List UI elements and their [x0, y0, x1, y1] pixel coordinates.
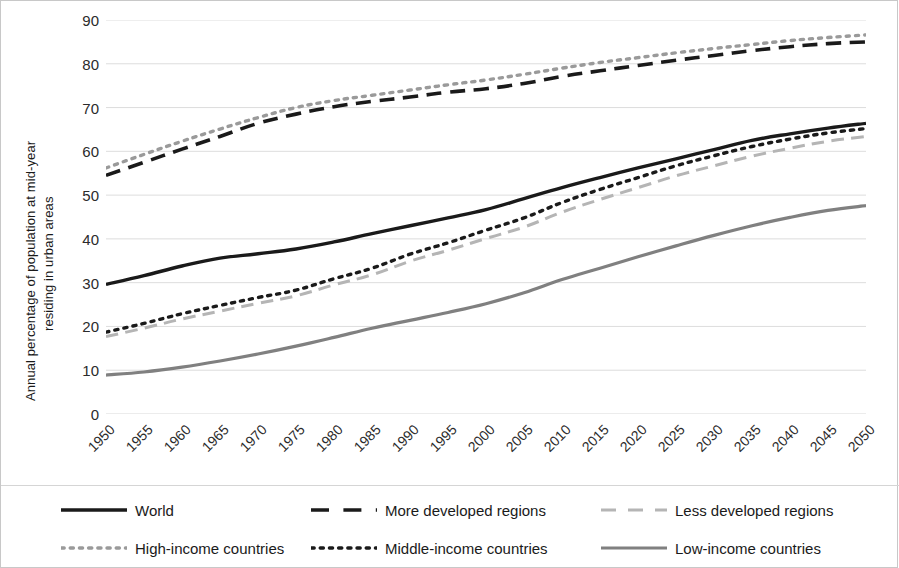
x-axis-tick-label: 1955: [109, 421, 156, 468]
x-axis-tick-label: 2005: [489, 421, 536, 468]
x-axis-tick-label: 1960: [147, 421, 194, 468]
legend-item[interactable]: Less developed regions: [601, 502, 899, 519]
x-axis-tick-label: 1975: [261, 421, 308, 468]
x-axis-tick-label: 2035: [717, 421, 764, 468]
x-axis-tick-label: 1965: [185, 421, 232, 468]
y-axis-title: Annual percentage of population at mid-y…: [1, 1, 63, 431]
legend-item[interactable]: Low-income countries: [601, 540, 899, 557]
x-axis-tick-label: 2030: [679, 421, 726, 468]
legend-label: Low-income countries: [667, 540, 821, 557]
plot-area: [106, 20, 866, 414]
x-axis-tick-label: 2010: [527, 421, 574, 468]
y-axis-tick-label: 80: [65, 55, 99, 72]
x-axis-tick-labels: 1950195519601965197019751980198519901995…: [106, 414, 866, 484]
legend-label: Less developed regions: [667, 502, 833, 519]
legend-item[interactable]: Middle-income countries: [301, 540, 601, 557]
y-axis-tick-label: 0: [65, 406, 99, 423]
series-line-less-developed-regions: [106, 136, 866, 336]
series-line-more-developed-regions: [106, 42, 866, 176]
legend-item[interactable]: World: [1, 502, 301, 519]
y-axis-tick-label: 70: [65, 99, 99, 116]
y-axis-tick-label: 20: [65, 318, 99, 335]
legend-line-swatch: [601, 541, 667, 555]
x-axis-tick-label: 2000: [451, 421, 498, 468]
legend-row: WorldMore developed regionsLess develope…: [1, 490, 899, 530]
legend-item[interactable]: More developed regions: [301, 502, 601, 519]
chart-canvas: [106, 20, 866, 414]
y-axis-tick-label: 40: [65, 230, 99, 247]
legend-row: High-income countriesMiddle-income count…: [1, 528, 899, 568]
x-axis-tick-label: 2015: [565, 421, 612, 468]
legend-line-swatch: [61, 541, 127, 555]
legend-label: Middle-income countries: [377, 540, 548, 557]
y-axis-tick-label: 50: [65, 187, 99, 204]
legend-line-swatch: [601, 503, 667, 517]
x-axis-tick-label: 1990: [375, 421, 422, 468]
x-axis-tick-label: 2050: [831, 421, 878, 468]
legend-label: High-income countries: [127, 540, 284, 557]
legend-line-swatch: [311, 541, 377, 555]
y-axis-title-line-2: residing in urban areas: [41, 196, 56, 331]
chart-legend: WorldMore developed regionsLess develope…: [1, 485, 899, 568]
legend-label: More developed regions: [377, 502, 546, 519]
y-axis-tick-label: 60: [65, 143, 99, 160]
series-line-low-income-countries: [106, 206, 866, 375]
legend-line-swatch: [61, 503, 127, 517]
x-axis-tick-label: 1980: [299, 421, 346, 468]
x-axis-tick-label: 1995: [413, 421, 460, 468]
x-axis-tick-label: 2045: [793, 421, 840, 468]
y-axis-title-line-1: Annual percentage of population at mid-y…: [23, 141, 38, 401]
y-axis-tick-label: 30: [65, 274, 99, 291]
legend-line-swatch: [311, 503, 377, 517]
y-axis-tick-labels: 0102030405060708090: [61, 20, 99, 414]
series-line-middle-income-countries: [106, 129, 866, 333]
x-axis-tick-label: 1985: [337, 421, 384, 468]
x-axis-tick-label: 2040: [755, 421, 802, 468]
legend-label: World: [127, 502, 174, 519]
y-axis-tick-label: 90: [65, 12, 99, 29]
legend-item[interactable]: High-income countries: [1, 540, 301, 557]
x-axis-tick-label: 1950: [71, 421, 118, 468]
y-axis-tick-label: 10: [65, 362, 99, 379]
x-axis-tick-label: 1970: [223, 421, 270, 468]
x-axis-tick-label: 2020: [603, 421, 650, 468]
x-axis-tick-label: 2025: [641, 421, 688, 468]
